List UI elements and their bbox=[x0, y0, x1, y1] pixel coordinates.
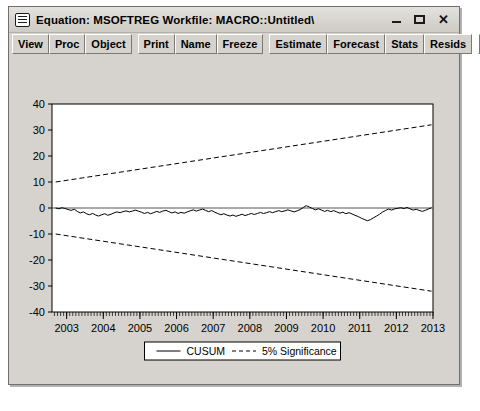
legend-label: 5% Significance bbox=[262, 345, 337, 357]
legend-label: CUSUM bbox=[187, 345, 226, 357]
x-tick-label: 2011 bbox=[348, 322, 372, 334]
y-tick-label: 20 bbox=[33, 150, 45, 162]
x-tick-label: 2010 bbox=[311, 322, 335, 334]
x-tick-label: 2006 bbox=[164, 322, 188, 334]
toolbar: View Proc Object Print Name Freeze Estim… bbox=[9, 33, 459, 55]
window-menu-icon[interactable] bbox=[15, 13, 30, 27]
x-tick-label: 2013 bbox=[421, 322, 445, 334]
toolbar-button-forecast[interactable]: Forecast bbox=[327, 34, 385, 54]
y-tick-label: 10 bbox=[33, 176, 45, 188]
toolbar-button-view[interactable]: View bbox=[12, 34, 49, 54]
x-tick-label: 2012 bbox=[384, 322, 408, 334]
toolbar-button-print[interactable]: Print bbox=[138, 34, 175, 54]
y-tick-label: -10 bbox=[29, 228, 45, 240]
chart-client-area: 403020100-10-20-30-402003200420052006200… bbox=[9, 56, 459, 384]
x-tick-label: 2003 bbox=[54, 322, 78, 334]
x-tick-label: 2004 bbox=[91, 322, 115, 334]
toolbar-button-object[interactable]: Object bbox=[85, 34, 131, 54]
y-tick-label: 40 bbox=[33, 98, 45, 110]
x-tick-label: 2007 bbox=[201, 322, 225, 334]
y-tick-label: -20 bbox=[29, 254, 45, 266]
y-tick-label: -40 bbox=[29, 306, 45, 318]
x-tick-label: 2008 bbox=[238, 322, 262, 334]
maximize-icon[interactable] bbox=[414, 13, 426, 26]
toolbar-button-stats[interactable]: Stats bbox=[385, 34, 424, 54]
equation-window: Equation: MSOFTREG Workfile: MACRO::Unti… bbox=[8, 6, 460, 385]
toolbar-button-freeze[interactable]: Freeze bbox=[217, 34, 264, 54]
x-tick-label: 2005 bbox=[128, 322, 152, 334]
toolbar-button-estimate[interactable]: Estimate bbox=[269, 34, 327, 54]
window-title: Equation: MSOFTREG Workfile: MACRO::Unti… bbox=[36, 14, 314, 26]
y-tick-label: -30 bbox=[29, 280, 45, 292]
toolbar-button-resids[interactable]: Resids bbox=[424, 34, 472, 54]
minimize-icon[interactable] bbox=[391, 13, 403, 26]
y-tick-label: 30 bbox=[33, 124, 45, 136]
toolbar-button-name[interactable]: Name bbox=[175, 34, 217, 54]
toolbar-button-proc[interactable]: Proc bbox=[49, 34, 85, 54]
window-titlebar[interactable]: Equation: MSOFTREG Workfile: MACRO::Unti… bbox=[9, 7, 459, 33]
x-tick-label: 2009 bbox=[274, 322, 298, 334]
y-tick-label: 0 bbox=[39, 202, 45, 214]
close-icon[interactable]: ✕ bbox=[437, 13, 449, 26]
cusum-chart: 403020100-10-20-30-402003200420052006200… bbox=[9, 56, 461, 384]
window-controls: ✕ bbox=[391, 13, 455, 26]
